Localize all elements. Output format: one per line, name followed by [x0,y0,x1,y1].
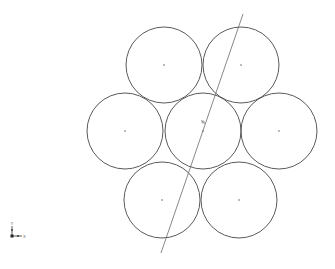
workplane-origin-icon [201,120,205,124]
circle-middle-right[interactable] [241,93,317,169]
center-point-icon [240,64,241,65]
center-point-icon [278,130,279,131]
x-axis-label: X [23,234,26,239]
section-line[interactable] [161,14,243,253]
circle-top-right[interactable] [203,27,279,103]
circle-top-left[interactable] [126,27,202,103]
coordinate-triad-icon: XY [10,221,26,239]
center-point-icon [238,199,239,200]
center-point-icon [163,64,164,65]
y-axis-label: Y [10,221,14,226]
cad-viewport[interactable]: XY [0,0,335,269]
center-point-icon [161,199,162,200]
circle-middle-left[interactable] [87,93,163,169]
circle-bottom-right[interactable] [201,162,277,238]
center-point-icon [124,130,125,131]
